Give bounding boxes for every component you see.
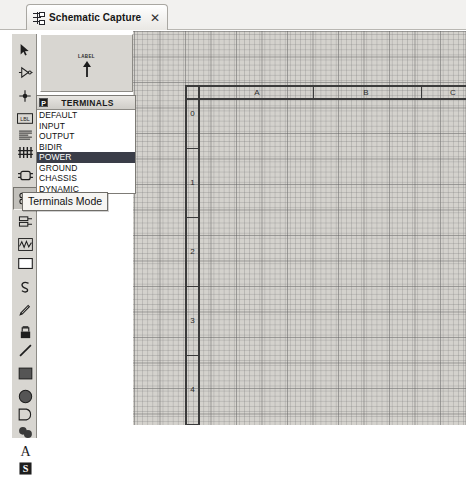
row-label-2: 2: [185, 247, 200, 256]
svg-text:LBL: LBL: [20, 116, 30, 122]
schematic-grid: [133, 31, 466, 425]
symbol-preview: LABEL: [40, 34, 133, 92]
pick-device-icon[interactable]: P: [39, 98, 48, 107]
terminal-item-ground[interactable]: GROUND: [37, 163, 135, 174]
power-terminal-icon: [80, 61, 93, 77]
left-margin-fill: [0, 30, 11, 442]
schematic-canvas[interactable]: ABC01234: [133, 31, 466, 425]
generator-icon: [18, 280, 32, 294]
mode-toolbar[interactable]: LBLAS: [11, 34, 37, 438]
column-label-a: A: [250, 85, 264, 100]
preview-label: LABEL: [41, 54, 132, 59]
terminal-item-default[interactable]: DEFAULT: [37, 110, 135, 121]
tool-voltage-probe[interactable]: [13, 298, 37, 321]
sheet-border-top-outer: [185, 85, 466, 87]
text-icon: A: [18, 443, 33, 458]
terminal-item-power[interactable]: POWER: [37, 152, 135, 163]
closed-path-icon: [18, 426, 33, 439]
component-icon: [18, 65, 33, 80]
svg-text:A: A: [20, 443, 31, 458]
tool-tape-recorder[interactable]: [13, 252, 37, 275]
rectangle-icon: [18, 367, 33, 380]
terminals-panel[interactable]: P TERMINALS DEFAULTINPUTOUTPUTBIDIRPOWER…: [36, 95, 136, 194]
tool-selection[interactable]: [13, 38, 37, 61]
terminal-item-bidir[interactable]: BIDIR: [37, 142, 135, 153]
tool-2d-line[interactable]: [13, 339, 37, 362]
tool-component[interactable]: [13, 61, 37, 84]
tool-buses[interactable]: [13, 141, 37, 164]
panel-gap-fill: [37, 196, 133, 442]
sheet-border-top-inner: [185, 98, 466, 100]
tool-junction-dot[interactable]: [13, 84, 37, 107]
column-label-c: C: [446, 85, 460, 100]
device-pin-icon: [18, 215, 33, 228]
column-separator: [313, 85, 314, 100]
tool-subcircuit[interactable]: [13, 164, 37, 187]
tool-2d-box[interactable]: [13, 362, 37, 385]
terminals-list[interactable]: DEFAULTINPUTOUTPUTBIDIRPOWERGROUNDCHASSI…: [37, 110, 135, 194]
terminal-item-output[interactable]: OUTPUT: [37, 131, 135, 142]
canvas-bottom-fill: [133, 425, 466, 442]
graph-icon: [18, 238, 33, 251]
column-label-b: B: [359, 85, 373, 100]
tab-label: Schematic Capture: [49, 12, 141, 23]
tab-schematic-capture[interactable]: Schematic Capture ✕: [26, 4, 168, 30]
terminals-panel-header: P TERMINALS: [37, 96, 135, 110]
row-separator: [185, 148, 200, 149]
symbol-icon: S: [19, 462, 32, 475]
row-label-4: 4: [185, 385, 200, 394]
wire-label-icon: LBL: [17, 113, 33, 124]
circle-icon: [18, 389, 33, 404]
cursor-arrow-icon: [18, 43, 32, 57]
tab-strip: Schematic Capture ✕: [0, 0, 466, 30]
tool-2d-symbol[interactable]: S: [13, 457, 37, 479]
column-separator: [421, 85, 422, 100]
tool-generator[interactable]: [13, 275, 37, 298]
voltage-probe-icon: [18, 303, 32, 317]
row-label-3: 3: [185, 316, 200, 325]
row-label-1: 1: [185, 178, 200, 187]
terminal-item-input[interactable]: INPUT: [37, 121, 135, 132]
buses-icon: [18, 147, 33, 158]
tooltip-terminals-mode: Terminals Mode: [22, 192, 108, 211]
schematic-capture-icon: [33, 12, 44, 24]
tape-recorder-icon: [18, 258, 33, 269]
row-separator: [185, 355, 200, 356]
svg-text:S: S: [22, 463, 28, 474]
row-label-0: 0: [185, 109, 200, 118]
tool-device-pins[interactable]: [13, 210, 37, 233]
subcircuit-icon: [18, 169, 33, 182]
virtual-instrument-icon: [18, 325, 33, 340]
junction-dot-icon: [18, 89, 32, 103]
terminal-item-chassis[interactable]: CHASSIS: [37, 173, 135, 184]
text-script-icon: [18, 130, 33, 141]
close-icon[interactable]: ✕: [146, 12, 160, 24]
row-separator: [185, 286, 200, 287]
terminals-panel-title: TERMINALS: [48, 98, 135, 108]
arc-icon: [18, 408, 33, 421]
row-separator: [185, 217, 200, 218]
line-icon: [18, 343, 33, 358]
